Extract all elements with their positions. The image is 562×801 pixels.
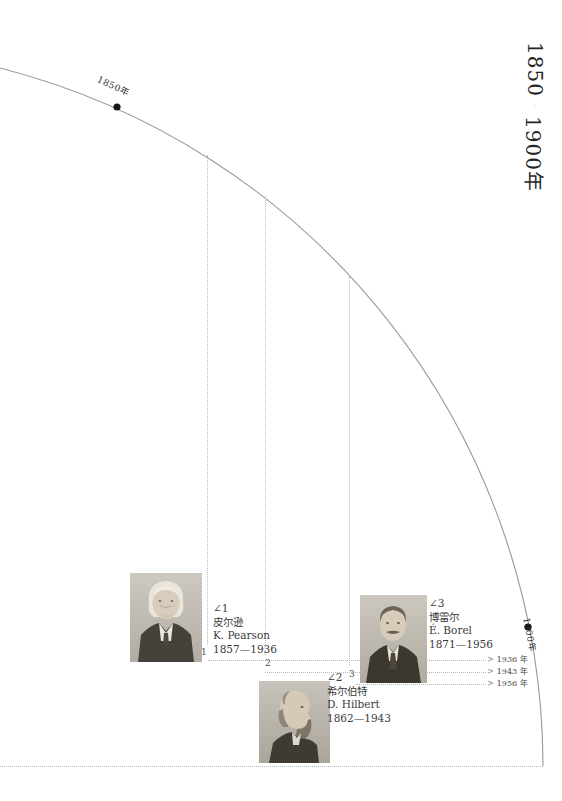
birth-guide-line-3 bbox=[349, 277, 350, 665]
birth-guide-line-2 bbox=[265, 196, 266, 655]
death-year-label-1: 1936 年 bbox=[497, 655, 528, 664]
baseline-dotted-line bbox=[0, 766, 543, 767]
portrait-pearson bbox=[130, 573, 202, 662]
angle-index-3: ∠3 bbox=[429, 597, 493, 611]
life-years-hilbert: 1862—1943 bbox=[327, 712, 391, 726]
angle-index-1: ∠1 bbox=[213, 602, 277, 616]
timeline-page: 1850年 1900年 1850 1900年 1 2 3 >1936 年 >19… bbox=[0, 0, 562, 801]
timeline-arc bbox=[0, 68, 543, 766]
name-en-pearson: K. Pearson bbox=[213, 629, 277, 643]
death-year-row-3: >1956 年 bbox=[487, 680, 528, 688]
death-arrow-icon-2: > bbox=[487, 667, 494, 676]
portrait-borel bbox=[360, 595, 427, 683]
name-zh-borel: 博雷尔 bbox=[429, 611, 493, 625]
person-label-borel: ∠3 博雷尔 É. Borel 1871—1956 bbox=[429, 597, 493, 651]
name-zh-hilbert: 希尔伯特 bbox=[327, 685, 391, 699]
angle-index-2: ∠2 bbox=[327, 671, 391, 685]
title-start-year: 1850 bbox=[523, 42, 547, 97]
death-guide-line-1 bbox=[208, 660, 486, 661]
life-years-borel: 1871—1956 bbox=[429, 638, 493, 652]
name-zh-pearson: 皮尔逊 bbox=[213, 616, 277, 630]
death-year-row-1: >1936 年 bbox=[487, 656, 528, 664]
title-end-year: 1900年 bbox=[521, 116, 550, 192]
death-arrow-icon-1: > bbox=[487, 655, 494, 664]
range-wedge-icon bbox=[530, 104, 541, 109]
year-dot-1850 bbox=[113, 103, 120, 110]
person-marker-2: 2 bbox=[265, 659, 271, 668]
portrait-hilbert bbox=[259, 681, 330, 763]
death-year-label-2: 1943 年 bbox=[497, 667, 528, 676]
person-label-pearson: ∠1 皮尔逊 K. Pearson 1857—1936 bbox=[213, 602, 277, 656]
person-label-hilbert: ∠2 希尔伯特 D. Hilbert 1862—1943 bbox=[327, 671, 391, 725]
title-range: 1850 1900年 bbox=[521, 42, 549, 192]
name-en-hilbert: D. Hilbert bbox=[327, 698, 391, 712]
birth-guide-line-1 bbox=[207, 155, 208, 645]
death-arrow-icon-3: > bbox=[487, 679, 494, 688]
name-en-borel: É. Borel bbox=[429, 624, 493, 638]
life-years-pearson: 1857—1936 bbox=[213, 643, 277, 657]
death-year-row-2: >1943 年 bbox=[487, 668, 528, 676]
death-year-label-3: 1956 年 bbox=[497, 679, 528, 688]
